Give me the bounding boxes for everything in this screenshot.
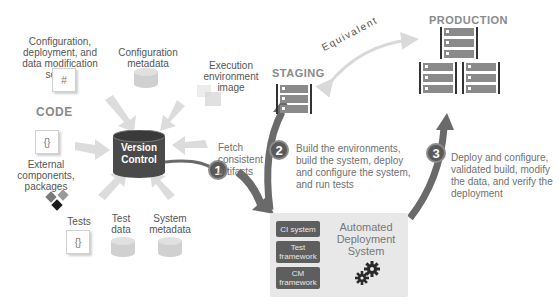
- scripts-icon: #: [52, 68, 76, 92]
- production-server-left-icon: [419, 62, 457, 94]
- production-server-right-icon: [462, 62, 500, 94]
- version-control-line1: Version: [113, 142, 165, 154]
- tests-label: Tests: [64, 216, 94, 227]
- system-metadata-label: System metadata: [148, 213, 192, 235]
- step-1-text: Fetch consistent artifacts: [218, 142, 270, 178]
- packages-icon: [44, 190, 74, 218]
- tests-icon: {}: [66, 230, 90, 254]
- automated-deployment-system: CI system Test framework CM framework Au…: [270, 213, 408, 297]
- staging-server-icon: [276, 84, 312, 114]
- version-control-label: Version Control: [113, 142, 165, 166]
- cm-framework: CM framework: [276, 267, 320, 289]
- step-3-text: Deploy and configure, validated build, m…: [451, 152, 556, 200]
- external-components-label: External components, packages: [15, 159, 77, 192]
- step-2-badge: 2: [269, 140, 289, 160]
- step-2-text: Build the environments, build the system…: [296, 143, 411, 191]
- test-framework: Test framework: [276, 241, 320, 263]
- exec-env-image-layer: [205, 92, 221, 106]
- step-3-badge: 3: [426, 143, 446, 163]
- version-control: Version Control: [113, 130, 165, 178]
- staging-heading: STAGING: [272, 67, 325, 79]
- external-components-icon: {}: [35, 130, 59, 154]
- arrow-scripts: [105, 95, 136, 132]
- ci-system: CI system: [276, 221, 320, 237]
- version-control-line2: Control: [113, 154, 165, 166]
- ads-title: Automated Deployment System: [326, 221, 406, 257]
- config-metadata-label: Configuration metadata: [118, 47, 178, 69]
- code-heading: CODE: [36, 105, 73, 119]
- test-data-label: Test data: [106, 213, 136, 235]
- production-heading: PRODUCTION: [429, 14, 508, 26]
- config-metadata-db-icon: [134, 68, 158, 88]
- test-data-db-icon: [111, 237, 135, 257]
- system-metadata-db-icon: [158, 237, 182, 257]
- production-server-top-icon: [440, 27, 478, 59]
- gears-icon: [354, 259, 382, 287]
